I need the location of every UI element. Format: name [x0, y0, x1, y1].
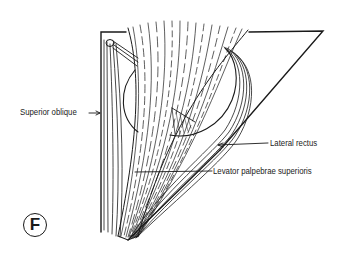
levator-muscle	[118, 21, 248, 240]
eyeball	[123, 48, 236, 136]
superior-oblique-muscle	[104, 40, 138, 238]
levator-leader	[135, 171, 212, 172]
lateral-rectus-muscle	[130, 47, 252, 238]
orbit-muscle-diagram: Superior oblique Lateral rectus Levator …	[0, 0, 347, 256]
label-lateral-rectus: Lateral rectus	[270, 137, 317, 148]
label-superior-oblique: Superior oblique	[20, 106, 77, 117]
diagram-artwork	[0, 0, 347, 256]
plate-letter-badge: F	[23, 213, 47, 237]
plate-letter: F	[30, 215, 40, 235]
label-levator-palpebrae-superioris: Levator palpebrae superioris	[213, 165, 312, 176]
leader-lines	[89, 111, 268, 172]
